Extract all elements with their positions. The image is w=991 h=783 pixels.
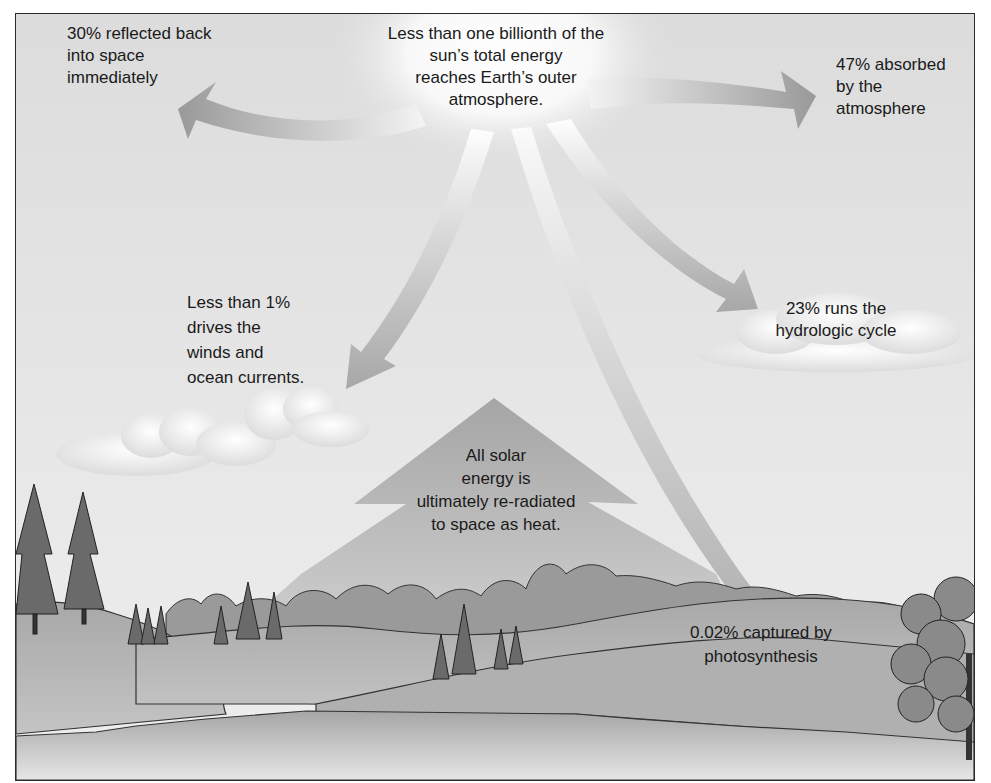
label-line: to space as heat. xyxy=(391,513,601,536)
label-line: Less than one billionth of the xyxy=(356,23,636,45)
label-line: by the xyxy=(836,76,946,98)
label-line: 30% reflected back xyxy=(67,23,212,45)
label-photosynthesis: 0.02% captured by photosynthesis xyxy=(666,621,856,669)
diagram-frame: 30% reflected back into space immediatel… xyxy=(15,13,975,781)
label-line: winds and xyxy=(187,340,304,365)
label-line: reaches Earth’s outer xyxy=(356,67,636,89)
label-reradiated: All solar energy is ultimately re-radiat… xyxy=(391,444,601,536)
label-line: photosynthesis xyxy=(666,645,856,669)
label-line: sun’s total energy xyxy=(356,45,636,67)
label-reflected: 30% reflected back into space immediatel… xyxy=(67,23,212,89)
label-line: atmosphere xyxy=(836,98,946,120)
label-line: atmosphere. xyxy=(356,89,636,111)
label-line: hydrologic cycle xyxy=(756,320,916,342)
label-line: ocean currents. xyxy=(187,365,304,390)
label-line: All solar xyxy=(391,444,601,467)
label-winds: Less than 1% drives the winds and ocean … xyxy=(187,290,304,390)
label-hydrologic: 23% runs the hydrologic cycle xyxy=(756,298,916,342)
label-line: Less than 1% xyxy=(187,290,304,315)
label-line: 23% runs the xyxy=(756,298,916,320)
label-source: Less than one billionth of the sun’s tot… xyxy=(356,23,636,111)
label-line: drives the xyxy=(187,315,304,340)
label-line: 0.02% captured by xyxy=(666,621,856,645)
label-absorbed: 47% absorbed by the atmosphere xyxy=(836,54,946,120)
label-line: energy is xyxy=(391,467,601,490)
label-line: ultimately re-radiated xyxy=(391,490,601,513)
label-line: immediately xyxy=(67,67,212,89)
label-line: into space xyxy=(67,45,212,67)
label-line: 47% absorbed xyxy=(836,54,946,76)
